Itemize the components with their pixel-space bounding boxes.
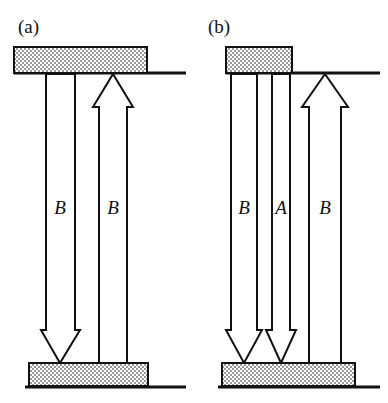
flux-arrow-down-a: A — [266, 74, 296, 363]
flux-arrow-down-a-label: A — [273, 197, 287, 218]
flux-arrow-down-b-left-shape — [226, 74, 262, 363]
flux-arrow-down-b: B — [41, 74, 80, 363]
flux-arrow-down-b-left-label: B — [238, 197, 250, 218]
flux-arrow-down-b-shape — [41, 74, 80, 363]
bottom-phase-block — [29, 363, 148, 386]
panel-label-b: (b) — [208, 16, 230, 38]
flux-arrow-up-b-right: B — [302, 74, 348, 363]
flux-arrow-down-b-label: B — [54, 197, 66, 218]
flux-arrow-up-b-right-shape — [302, 74, 348, 363]
flux-arrow-down-a-shape — [266, 74, 296, 363]
panel-label-a: (a) — [18, 16, 39, 38]
top-phase-block — [14, 47, 147, 73]
flux-arrow-up-b-shape — [93, 74, 133, 363]
flux-arrow-up-b-right-label: B — [319, 197, 331, 218]
figure-canvas: BBBAB — [0, 0, 388, 403]
flux-arrow-down-b-left: B — [226, 74, 262, 363]
panel-a: BB — [14, 47, 186, 387]
bottom-phase-block — [222, 363, 355, 386]
flux-arrow-up-b-label: B — [107, 197, 119, 218]
panel-b: BAB — [218, 47, 380, 387]
top-phase-block — [226, 47, 292, 73]
flux-arrow-up-b: B — [93, 74, 133, 363]
diffusion-flux-figure: (a) (b) BBBAB — [0, 0, 388, 403]
